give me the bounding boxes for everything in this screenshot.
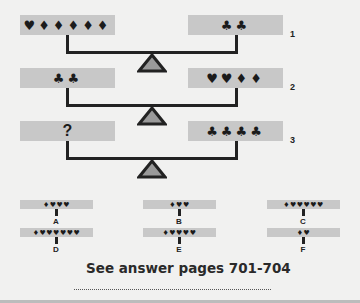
balance-2-right-pan: ♥♥♦♦ bbox=[188, 68, 283, 88]
option-f-letter: F bbox=[293, 245, 313, 254]
balance-1-left-pan: ♥♦♦♦♦♦ bbox=[20, 15, 115, 35]
option-c-symbols: ♦♥♥♥♥♥ bbox=[267, 200, 340, 209]
option-b-letter: B bbox=[169, 217, 189, 226]
option-e-stem bbox=[178, 237, 181, 244]
balance-2-fulcrum-icon bbox=[137, 106, 167, 126]
balance-1-number: 1 bbox=[290, 29, 295, 39]
answer-reference: See answer pages 701-704 bbox=[86, 260, 286, 276]
option-e-letter: E bbox=[169, 245, 189, 254]
option-a-symbols: ♦♥♥♥ bbox=[20, 200, 93, 209]
option-a-stem bbox=[55, 209, 58, 216]
option-d-symbols: ♦♥♥♥♥♥♥ bbox=[20, 228, 93, 237]
balance-3-left-pan: ? bbox=[20, 121, 115, 141]
balance-2-left-pan: ♣♣ bbox=[20, 68, 115, 88]
balance-3-fulcrum-icon bbox=[137, 159, 167, 179]
option-f-symbols: ♦♥ bbox=[267, 228, 340, 237]
option-a-letter: A bbox=[46, 217, 66, 226]
balance-1-fulcrum-icon bbox=[137, 53, 167, 73]
balance-2-number: 2 bbox=[290, 82, 295, 92]
option-b-symbols: ♦♥♥ bbox=[143, 200, 216, 209]
option-c-letter: C bbox=[293, 217, 313, 226]
balance-1-right-pan: ♣♣ bbox=[188, 15, 283, 35]
option-c-stem bbox=[302, 209, 305, 216]
balance-3-right-pan: ♣♣♣♣ bbox=[188, 121, 283, 141]
option-e-symbols: ♦♥♥♥♥ bbox=[143, 228, 216, 237]
balance-3-number: 3 bbox=[290, 135, 295, 145]
dotted-divider bbox=[74, 289, 271, 290]
option-d-letter: D bbox=[46, 245, 66, 254]
option-d-stem bbox=[55, 237, 58, 244]
option-b-stem bbox=[178, 209, 181, 216]
option-f-stem bbox=[302, 237, 305, 244]
